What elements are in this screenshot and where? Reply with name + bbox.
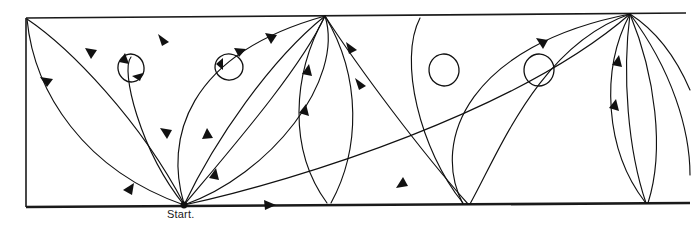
arrow-left-diag-up bbox=[85, 48, 97, 59]
arc-bottom2-up-left bbox=[411, 18, 463, 203]
arc-topright-fan-c bbox=[630, 14, 656, 203]
arc-start-to-topright-long bbox=[184, 14, 630, 205]
arc-topright-to-edge bbox=[630, 14, 690, 90]
arc-bottom3-to-topright-wide bbox=[470, 14, 630, 204]
arc-group-left bbox=[27, 16, 328, 205]
arrow-bottom-edge bbox=[264, 200, 276, 210]
geodesic-diagram-svg bbox=[0, 0, 692, 235]
frame-bottom-edge bbox=[26, 203, 690, 207]
arc-group-middle bbox=[184, 14, 630, 205]
figure-root: Start. bbox=[0, 0, 692, 235]
arrow-mid-down-a bbox=[160, 128, 172, 139]
arrow-mid-up-b bbox=[346, 42, 357, 54]
band-frame bbox=[26, 13, 690, 207]
arc-topcenter-to-bottom3 bbox=[325, 16, 468, 204]
loop-2 bbox=[213, 52, 244, 82]
arrow-mid-up-a bbox=[355, 78, 366, 90]
loop-group bbox=[115, 52, 555, 88]
arc-group-right bbox=[470, 14, 690, 204]
arrow-right-up bbox=[536, 38, 548, 49]
arrow-left-outer-down bbox=[40, 77, 53, 87]
arrow-to-topright bbox=[396, 177, 408, 188]
arrow-left-sweep-down bbox=[123, 183, 134, 195]
frame-top-edge bbox=[26, 13, 686, 18]
start-label: Start. bbox=[167, 208, 195, 220]
arrow-up-to-topcenter bbox=[265, 33, 277, 44]
arc-topright-fan-b bbox=[627, 14, 646, 203]
arc-topleft-to-start-outer bbox=[27, 19, 184, 205]
loop-3 bbox=[427, 53, 460, 88]
arc-topleft-to-start-inner bbox=[27, 19, 184, 204]
arrow-start-up-a bbox=[158, 34, 169, 46]
arrow-topcenter-down-a bbox=[202, 128, 213, 139]
arrowhead-group bbox=[40, 33, 622, 210]
